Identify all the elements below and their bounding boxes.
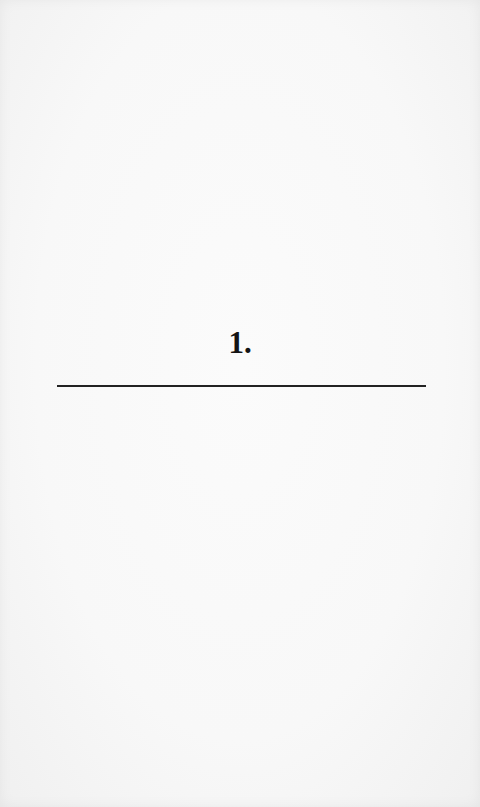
horizontal-rule [57, 385, 426, 387]
book-page: 1. [0, 0, 480, 807]
chapter-number-heading: 1. [0, 325, 480, 361]
